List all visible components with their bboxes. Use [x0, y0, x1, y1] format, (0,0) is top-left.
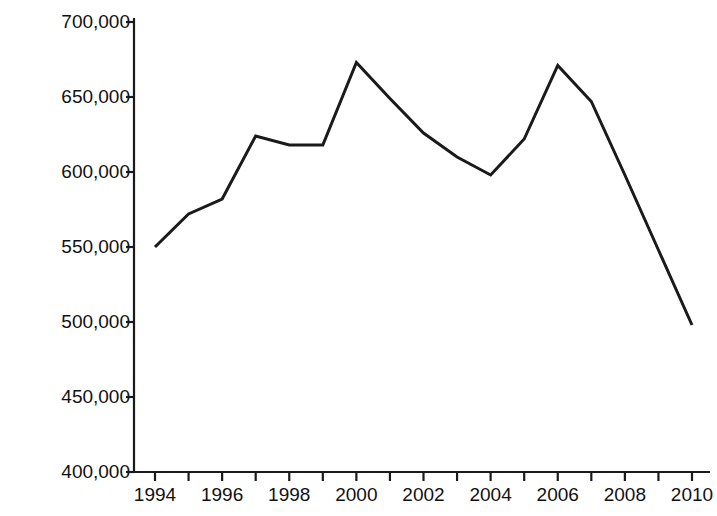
plot-area [0, 0, 717, 516]
chart-container: Number of Businesses 400,000450,000500,0… [0, 0, 717, 516]
axis-spines [134, 18, 710, 472]
y-axis-tick-marks [126, 22, 134, 472]
data-series-line [155, 63, 692, 326]
x-axis-tick-marks [155, 472, 692, 481]
